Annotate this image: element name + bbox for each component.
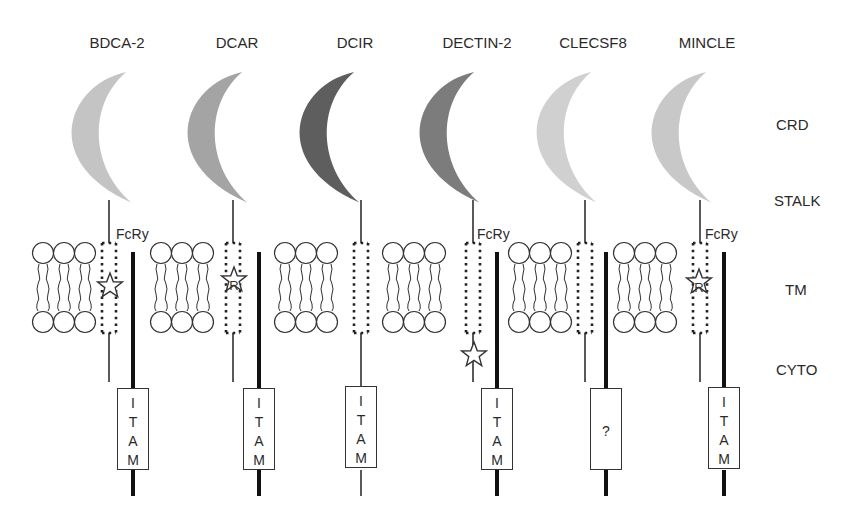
itam-box-bdca-2: I T A M	[117, 388, 149, 470]
itam-letter: A	[356, 432, 365, 446]
unknown-motif-box-clecsf8: ?	[590, 388, 622, 470]
receptor-title-dcar: DCAR	[216, 34, 259, 51]
itam-letter: M	[253, 453, 265, 467]
star-letter-mincle: R	[694, 280, 703, 295]
itam-letter: A	[492, 434, 501, 448]
itam-letter: M	[718, 452, 730, 466]
region-label-cyto: CYTO	[776, 361, 817, 378]
receptor-title-dectin-2: DECTIN-2	[442, 34, 511, 51]
itam-letter: I	[131, 396, 135, 410]
itam-letter: T	[255, 415, 264, 429]
receptor-title-bdca-2: BDCA-2	[89, 34, 144, 51]
itam-letter: T	[493, 415, 502, 429]
itam-letter: I	[722, 395, 726, 409]
itam-letter: A	[254, 434, 263, 448]
itam-letter: I	[359, 394, 363, 408]
fcr-gamma-label-dectin-2: FcRy	[477, 226, 510, 242]
fcr-gamma-label-bdca-2: FcRy	[116, 226, 149, 242]
itam-box-dcar: I T A M	[243, 388, 275, 470]
itam-letter: M	[127, 453, 139, 467]
receptor-title-clecsf8: CLECSF8	[559, 34, 627, 51]
star-letter-dcar: R	[229, 278, 238, 293]
receptor-title-mincle: MINCLE	[679, 34, 736, 51]
itam-letter: M	[355, 451, 367, 465]
unknown-motif-label: ?	[602, 424, 610, 438]
itam-box-dcir: I T A M	[345, 386, 377, 468]
itam-letter: I	[495, 396, 499, 410]
itam-letter: I	[257, 396, 261, 410]
itam-letter: A	[128, 434, 137, 448]
itam-box-mincle: I T A M	[708, 387, 740, 469]
region-label-tm: TM	[785, 281, 807, 298]
receptor-title-dcir: DCIR	[337, 34, 374, 51]
itam-box-dectin-2: I T A M	[481, 388, 513, 470]
itam-letter: T	[720, 414, 729, 428]
itam-letter: T	[357, 413, 366, 427]
fcr-gamma-label-mincle: FcRy	[705, 226, 738, 242]
itam-letter: T	[129, 415, 138, 429]
region-label-stalk: STALK	[774, 192, 820, 209]
itam-letter: A	[719, 433, 728, 447]
region-label-crd: CRD	[776, 116, 809, 133]
crd-shape	[72, 72, 132, 203]
itam-letter: M	[491, 453, 503, 467]
